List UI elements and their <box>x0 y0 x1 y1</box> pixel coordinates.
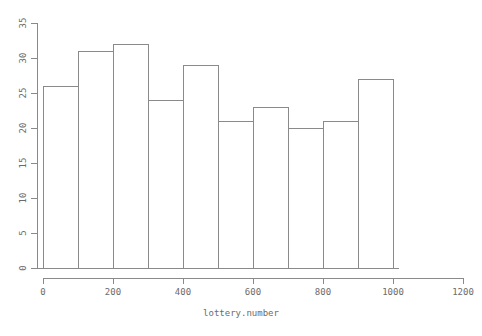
x-axis-tick-label: 1200 <box>452 287 474 297</box>
histogram-bar <box>253 107 288 268</box>
histogram-bar <box>43 86 78 268</box>
histogram-bar <box>323 121 358 268</box>
y-axis: 05101520253035 <box>18 18 38 271</box>
histogram-bar <box>288 128 323 268</box>
y-axis-tick-label: 0 <box>18 265 28 270</box>
y-axis-tick-label: 30 <box>18 53 28 64</box>
histogram-plot: 05101520253035 020040060080010001200 lot… <box>0 0 482 336</box>
x-axis-tick-label: 1000 <box>382 287 404 297</box>
histogram-bar <box>183 65 218 268</box>
x-axis-tick-label: 800 <box>315 287 331 297</box>
histogram-bar <box>78 51 113 268</box>
bars-group <box>43 44 393 268</box>
y-axis-tick-label: 35 <box>18 18 28 29</box>
y-axis-tick-label: 5 <box>18 230 28 235</box>
chart-canvas: 05101520253035 020040060080010001200 lot… <box>0 0 482 336</box>
y-axis-tick-label: 10 <box>18 193 28 204</box>
x-axis-title: lottery.number <box>203 308 279 318</box>
x-axis-tick-label: 600 <box>245 287 261 297</box>
x-axis-tick-label: 400 <box>175 287 191 297</box>
histogram-bar <box>218 121 253 268</box>
x-axis-tick-label: 200 <box>105 287 121 297</box>
y-axis-tick-label: 15 <box>18 158 28 169</box>
histogram-bar <box>148 100 183 268</box>
histogram-bar <box>113 44 148 268</box>
x-axis-tick-label: 0 <box>40 287 45 297</box>
y-axis-tick-label: 20 <box>18 123 28 134</box>
x-axis: 020040060080010001200 <box>37 268 474 297</box>
y-axis-tick-label: 25 <box>18 88 28 99</box>
histogram-bar <box>358 79 393 268</box>
